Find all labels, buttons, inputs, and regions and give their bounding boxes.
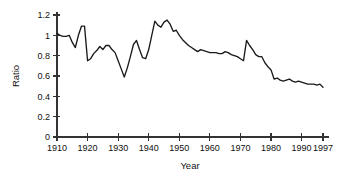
- y-tick-label: 0.6: [37, 71, 50, 81]
- data-series-ratio: [57, 20, 323, 87]
- x-tick-label: 1940: [139, 143, 159, 153]
- x-tick-label: 1910: [47, 143, 67, 153]
- chart-figure: 00.20.40.60.811.2 1910192019301940195019…: [0, 0, 357, 180]
- y-tick-label: 0: [45, 132, 50, 142]
- x-tick-label: 1920: [78, 143, 98, 153]
- x-tick-label: 1980: [261, 143, 281, 153]
- x-tick-label: 1950: [169, 143, 189, 153]
- y-axis-title: Ratio: [10, 65, 21, 87]
- x-tick-label: 1990: [292, 143, 312, 153]
- y-tick-label: 0.8: [37, 51, 50, 61]
- y-tick-label: 1: [45, 31, 50, 41]
- x-axis-title: Year: [180, 160, 199, 171]
- y-tick-label: 0.4: [37, 92, 50, 102]
- x-tick-label: 1930: [108, 143, 128, 153]
- x-tick-label: 1997: [313, 143, 333, 153]
- x-tick-label: 1970: [230, 143, 250, 153]
- x-axis-tick-labels: 1910192019301940195019601970198019901997: [47, 143, 333, 153]
- line-chart: 00.20.40.60.811.2 1910192019301940195019…: [0, 0, 357, 180]
- y-tick-label: 0.2: [37, 112, 50, 122]
- y-tick-label: 1.2: [37, 10, 50, 20]
- y-axis-tick-labels: 00.20.40.60.811.2: [37, 10, 50, 142]
- x-tick-label: 1960: [200, 143, 220, 153]
